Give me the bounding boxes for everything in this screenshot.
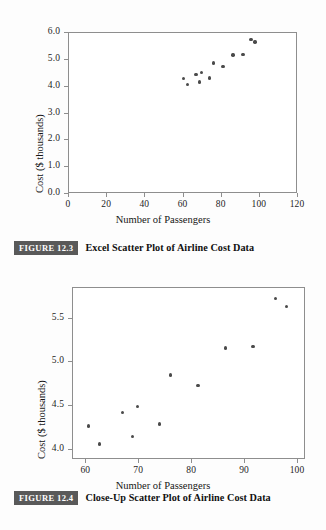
data-point <box>221 65 224 68</box>
figure-12-4-block: 4.04.55.05.560708090100Number of Passeng… <box>0 265 326 530</box>
data-point <box>208 76 211 79</box>
data-point <box>98 442 101 445</box>
data-point <box>253 40 256 43</box>
y-axis-tick <box>64 139 68 140</box>
y-axis-tick <box>68 361 72 362</box>
data-point <box>224 346 227 349</box>
x-axis-tick <box>221 193 222 197</box>
y-axis-tick-label: 4.0 <box>26 81 60 91</box>
data-point <box>131 435 134 438</box>
data-point <box>241 53 244 56</box>
figure-12-3-block: 0.01.02.03.04.05.06.0020406080100120Numb… <box>0 0 326 265</box>
y-axis-tick <box>68 405 72 406</box>
plot-area <box>72 287 305 459</box>
x-axis-tick-label: 80 <box>216 200 226 210</box>
y-axis-tick <box>64 59 68 60</box>
data-point <box>274 297 277 300</box>
x-axis-tick <box>297 459 298 463</box>
data-point <box>251 345 254 348</box>
y-axis-tick <box>64 86 68 87</box>
y-axis-tick-label: 6.0 <box>26 27 60 37</box>
x-axis-tick-label: 60 <box>178 200 188 210</box>
data-point <box>231 53 234 56</box>
data-point <box>169 373 172 376</box>
figure-caption-12-3: FIGURE 12.3 Excel Scatter Plot of Airlin… <box>14 241 254 255</box>
x-axis-tick-label: 40 <box>139 200 149 210</box>
plot-area <box>68 32 297 193</box>
x-axis-tick <box>138 459 139 463</box>
figure-caption-text: Close-Up Scatter Plot of Airline Cost Da… <box>85 492 270 503</box>
data-point <box>158 422 161 425</box>
x-axis-title: Number of Passengers <box>0 480 326 491</box>
data-point <box>87 424 90 427</box>
figure-caption-text: Excel Scatter Plot of Airline Cost Data <box>85 242 254 253</box>
x-axis-tick <box>183 193 184 197</box>
y-axis-tick <box>64 113 68 114</box>
y-axis-tick-label: 5.0 <box>26 54 60 64</box>
x-axis-title: Number of Passengers <box>0 214 326 225</box>
y-axis-title: Cost ($ thousands) <box>34 114 45 193</box>
x-axis-tick <box>68 193 69 197</box>
data-point <box>212 61 215 64</box>
x-axis-tick <box>244 459 245 463</box>
y-axis-tick-label: 5.5 <box>30 313 64 323</box>
x-axis-tick <box>259 193 260 197</box>
y-axis-title: Cost ($ thousands) <box>36 380 47 459</box>
x-axis-tick-label: 100 <box>252 200 267 210</box>
data-point <box>285 305 288 308</box>
x-axis-tick <box>144 193 145 197</box>
y-axis-tick <box>64 166 68 167</box>
x-axis-tick-label: 90 <box>239 466 249 476</box>
data-point <box>249 38 252 41</box>
x-axis-tick <box>191 459 192 463</box>
data-point <box>194 73 197 76</box>
data-point <box>198 80 201 83</box>
x-axis-tick-label: 60 <box>80 466 90 476</box>
y-axis-tick <box>68 318 72 319</box>
y-axis-tick <box>64 32 68 33</box>
figure-caption-12-4: FIGURE 12.4 Close-Up Scatter Plot of Air… <box>14 491 271 505</box>
x-axis-tick-label: 0 <box>66 200 71 210</box>
figure-page: 0.01.02.03.04.05.06.0020406080100120Numb… <box>0 0 326 530</box>
x-axis-tick-label: 80 <box>186 466 196 476</box>
x-axis-tick <box>297 193 298 197</box>
figure-number-badge: FIGURE 12.4 <box>14 491 78 505</box>
y-axis-tick-label: 5.0 <box>30 356 64 366</box>
x-axis-tick <box>106 193 107 197</box>
x-axis-tick-label: 70 <box>133 466 143 476</box>
x-axis-tick <box>85 459 86 463</box>
figure-number-badge: FIGURE 12.3 <box>14 241 78 255</box>
y-axis-tick <box>68 449 72 450</box>
x-axis-tick-label: 120 <box>290 200 305 210</box>
x-axis-tick-label: 20 <box>101 200 111 210</box>
x-axis-tick-label: 100 <box>290 466 305 476</box>
